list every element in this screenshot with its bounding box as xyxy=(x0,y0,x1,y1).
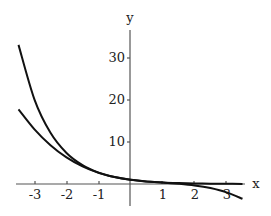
y-tick-label: 20 xyxy=(108,92,125,107)
x-tick-label: -1 xyxy=(93,187,106,202)
chart-canvas: -3 -2 -1 1 2 3 10 20 30 x y xyxy=(0,0,271,216)
x-axis-label: x xyxy=(252,176,260,191)
y-tick-label: 30 xyxy=(108,50,125,65)
y-tick-label: 10 xyxy=(108,134,125,149)
x-tick-label: -2 xyxy=(61,187,74,202)
x-tick-label: -3 xyxy=(29,187,42,202)
x-tick-label: 2 xyxy=(191,187,199,202)
y-axis-label: y xyxy=(125,10,134,25)
x-tick-label: 1 xyxy=(159,187,167,202)
